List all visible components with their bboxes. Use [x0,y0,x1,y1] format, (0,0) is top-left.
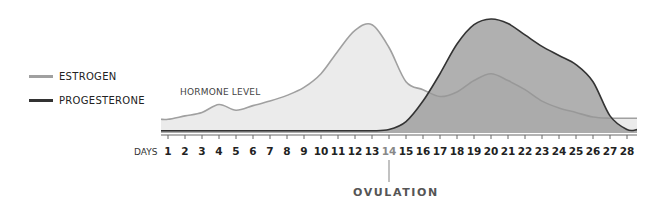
x-tick-label: 8 [283,145,290,157]
x-tick-label: 6 [249,145,256,157]
x-tick-label: 4 [215,145,222,157]
x-tick-label: 9 [300,145,307,157]
x-tick-label: 7 [266,145,273,157]
x-tick-label: 16 [416,145,431,157]
x-tick-label: 17 [433,145,448,157]
x-tick-label: 20 [484,145,499,157]
x-tick-label: 18 [450,145,465,157]
x-tick-label: 3 [198,145,205,157]
x-tick-label: 14 [382,145,397,157]
x-tick-label: 5 [232,145,239,157]
days-axis-label: DAYS [134,147,157,157]
x-tick-label: 27 [603,145,618,157]
x-tick-label: 11 [331,145,346,157]
x-tick-label: 24 [552,145,567,157]
hormone-level-label: HORMONE LEVEL [180,87,260,97]
ovulation-label: OVULATION [353,186,439,199]
x-tick-label: 1 [164,145,171,157]
x-tick-label: 2 [181,145,188,157]
hormone-chart: 1234567891011121314151617181920212223242… [0,0,665,212]
x-tick-label: 23 [535,145,550,157]
x-tick-label: 26 [586,145,601,157]
x-tick-label: 19 [467,145,482,157]
x-tick-label: 21 [501,145,516,157]
x-tick-label: 13 [365,145,380,157]
x-tick-label: 10 [314,145,329,157]
x-tick-label: 22 [518,145,533,157]
x-tick-label: 12 [348,145,363,157]
x-tick-label: 28 [620,145,635,157]
x-tick-label: 15 [399,145,414,157]
x-tick-label: 25 [569,145,584,157]
